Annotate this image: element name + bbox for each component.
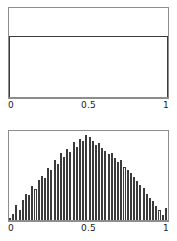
statistics-figure: 0 0.5 1 0 0.5 1 bbox=[0, 0, 177, 241]
histogram-bar bbox=[158, 210, 160, 220]
histogram-bar bbox=[133, 177, 135, 220]
histogram-bar bbox=[152, 201, 154, 220]
histogram-bar bbox=[79, 139, 81, 220]
histogram-bar bbox=[114, 158, 116, 220]
histogram-bar bbox=[92, 141, 94, 220]
histogram-bar bbox=[76, 147, 78, 220]
histogram-bar bbox=[15, 205, 17, 220]
histogram-bar bbox=[82, 141, 84, 220]
histogram-bar bbox=[155, 206, 157, 220]
histogram-bar bbox=[41, 176, 43, 220]
histogram-bars bbox=[9, 131, 168, 220]
histogram-bar bbox=[73, 142, 75, 220]
histogram-bar bbox=[127, 170, 129, 220]
histogram-bar bbox=[85, 135, 87, 220]
histogram-bar bbox=[44, 178, 46, 220]
histogram-bar bbox=[139, 185, 141, 220]
histogram-bar bbox=[165, 208, 167, 220]
histogram-bar bbox=[66, 149, 68, 220]
histogram-bar bbox=[101, 148, 103, 220]
histogram-bar bbox=[60, 153, 62, 220]
uniform-density-rectangle bbox=[9, 36, 168, 97]
histogram-bar bbox=[12, 214, 14, 220]
histogram-bar bbox=[31, 186, 33, 220]
histogram-bar bbox=[25, 194, 27, 220]
histogram-bar bbox=[162, 215, 164, 220]
axis-line-triangular bbox=[8, 221, 169, 222]
histogram-bar bbox=[63, 157, 65, 220]
x-axis-triangular: 0 0.5 1 bbox=[8, 221, 169, 239]
histogram-bar bbox=[149, 198, 151, 220]
axis-line-uniform bbox=[8, 98, 169, 99]
x-axis-uniform: 0 0.5 1 bbox=[8, 98, 169, 116]
uniform-density-panel bbox=[8, 7, 169, 98]
xtick-label-uniform-0: 0 bbox=[8, 100, 14, 111]
histogram-bar bbox=[143, 188, 145, 220]
histogram-bar bbox=[146, 194, 148, 220]
xtick-label-triangular-0: 0 bbox=[8, 223, 14, 234]
plot-area-uniform bbox=[9, 8, 168, 97]
histogram-bar bbox=[47, 168, 49, 220]
xtick-label-uniform-1: 1 bbox=[163, 100, 169, 111]
xtick-label-triangular-0p5: 0.5 bbox=[81, 223, 96, 234]
histogram-bar bbox=[104, 151, 106, 220]
histogram-bar bbox=[19, 210, 21, 220]
histogram-bar bbox=[120, 160, 122, 220]
histogram-bar bbox=[38, 180, 40, 220]
histogram-bar bbox=[22, 200, 24, 221]
histogram-bar bbox=[50, 170, 52, 220]
histogram-bar bbox=[9, 218, 11, 220]
histogram-bar bbox=[136, 181, 138, 220]
histogram-bar bbox=[95, 145, 97, 220]
histogram-bar bbox=[89, 137, 91, 220]
histogram-bar bbox=[98, 143, 100, 220]
histogram-bar bbox=[54, 160, 56, 220]
histogram-bar bbox=[130, 173, 132, 220]
histogram-bar bbox=[117, 162, 119, 220]
histogram-bar bbox=[108, 154, 110, 220]
histogram-bar bbox=[69, 152, 71, 220]
xtick-label-uniform-0p5: 0.5 bbox=[81, 100, 96, 111]
histogram-bar bbox=[28, 195, 30, 220]
triangular-histogram-panel bbox=[8, 130, 169, 221]
histogram-bar bbox=[123, 167, 125, 220]
histogram-bar bbox=[34, 189, 36, 220]
xtick-label-triangular-1: 1 bbox=[163, 223, 169, 234]
histogram-bar bbox=[57, 164, 59, 220]
histogram-bar bbox=[111, 153, 113, 220]
plot-area-triangular bbox=[9, 131, 168, 220]
